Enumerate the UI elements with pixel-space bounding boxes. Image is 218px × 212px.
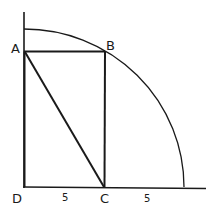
diagonal-AC [25,52,104,187]
label-C: C [100,191,109,206]
geometry-diagram: A B C D 5 5 [0,0,218,212]
horizontal-axis [23,187,206,189]
label-D: D [12,191,22,206]
label-B: B [106,38,115,53]
length-label-C-arc: 5 [144,193,150,204]
label-A: A [11,41,20,56]
length-label-DC: 5 [62,192,68,203]
segment-BC [105,52,106,188]
